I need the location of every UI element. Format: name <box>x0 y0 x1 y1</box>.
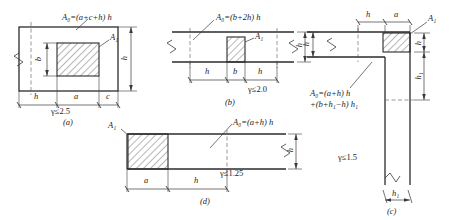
diagram-d-dim-h-right: h <box>285 148 295 152</box>
diagram-d-A1-label: A₁ <box>108 120 116 130</box>
diagram-c-dim-a-top: a <box>394 9 398 19</box>
diagram-b-dim-h-left: h <box>205 66 209 76</box>
diagram-c-dim-h-top: h <box>366 9 370 19</box>
diagram-a-dim-a-bottom: a <box>74 91 78 101</box>
diagram-b-A1-label: A₁ <box>255 31 263 41</box>
diagram-a-dim-b: b <box>33 57 43 61</box>
diagram-d-dim-a-bottom: a <box>144 175 148 185</box>
diagram-c-geometry <box>307 19 430 203</box>
diagram-a-area-formula: A₀=(a+c+h) h <box>62 12 112 23</box>
diagram-c-gamma-limit: γ≤1.5 <box>338 152 357 162</box>
diagram-a-dim-c-bottom: c <box>106 91 110 101</box>
diagram-d-area-formula: A₀=(a+h) h <box>233 117 273 128</box>
diagram-d-dim-h-bottom: h <box>194 175 198 185</box>
diagram-a-caption: (a) <box>63 117 73 127</box>
diagram-c-caption: (c) <box>387 206 396 216</box>
diagram-b-gamma-limit: γ≤2.0 <box>248 84 267 94</box>
diagram-a-dim-h-bottom: h <box>34 91 38 101</box>
diagram-c-area-formula-line2: +(b+h₁−h) h₁ <box>310 99 358 110</box>
diagram-c-dim-h-left: h <box>301 42 311 46</box>
diagram-c-A1-label: A₁ <box>428 13 436 23</box>
diagram-a-A1-label: A₁ <box>110 32 118 42</box>
diagram-c-dim-h1-right: h₁ <box>413 72 423 79</box>
diagram-c-area-formula-line1: A₀=(a+h) h <box>310 88 350 99</box>
diagram-b-dim-h-right-span: h <box>258 66 262 76</box>
diagram-d-gamma-limit: γ≤1.25 <box>220 168 243 178</box>
diagram-c-dim-h-right: h <box>413 41 423 45</box>
diagram-d-caption: (d) <box>200 196 210 206</box>
figure-sheet: A₀=(a+c+h) h A₁ b h h a c γ≤2.5 (a) A₀=(… <box>0 0 457 220</box>
diagram-b-geometry <box>167 20 311 83</box>
diagram-a-dim-h-right: h <box>119 56 129 60</box>
diagram-b-dim-b-mid: b <box>233 66 237 76</box>
diagram-b-caption: (b) <box>225 97 235 107</box>
diagram-c-dim-h1-bottom: h₁ <box>392 188 399 198</box>
diagram-b-area-formula: A₀=(b+2h) h <box>216 12 260 23</box>
diagram-a-gamma-limit: γ≤2.5 <box>51 106 70 116</box>
